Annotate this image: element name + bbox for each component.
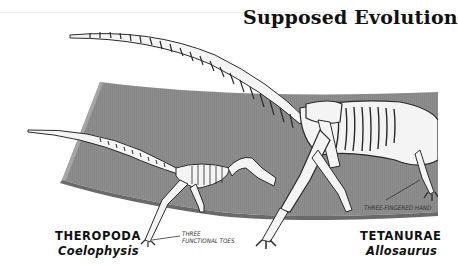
annotation-line: FUNCTIONAL TOES bbox=[182, 237, 234, 244]
coelophysis-label: Coelophysis bbox=[58, 244, 139, 258]
three-toes-annotation: THREE FUNCTIONAL TOES bbox=[182, 230, 234, 244]
page-title: Supposed Evolution bbox=[243, 6, 458, 28]
allosaurus-label: Allosaurus bbox=[366, 244, 437, 258]
three-fingered-hand-annotation: THREE-FINGERED HAND bbox=[364, 204, 431, 211]
toes-leader-line bbox=[152, 236, 180, 240]
annotation-line: THREE bbox=[182, 230, 234, 237]
tetanurae-label: TETANURAE bbox=[360, 229, 442, 243]
theropoda-label: THEROPODA bbox=[55, 229, 141, 243]
